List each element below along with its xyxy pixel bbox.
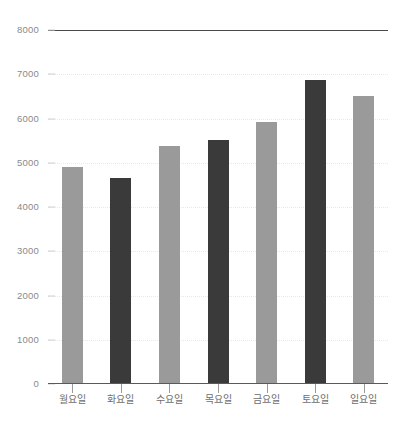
x-axis-labels-group: 월요일화요일수요일목요일금요일토요일일요일 [48,384,388,424]
x-tick-mark [121,384,122,393]
x-tick-mark [218,384,219,393]
gridline [48,30,388,31]
gridline [48,74,388,75]
bar-chart: 010002000300040005000600070008000 월요일화요일… [0,0,399,430]
bar[interactable] [110,178,131,384]
gridline [48,119,388,120]
x-tick-mark [315,384,316,393]
y-axis-tick-label: 1000 [0,335,39,345]
bar[interactable] [256,122,277,384]
x-tick-mark [267,384,268,393]
bar[interactable] [62,167,83,384]
plot-area [48,30,388,384]
y-axis-tick-label: 2000 [0,291,39,301]
y-tick-mark [48,118,55,119]
bar[interactable] [305,80,326,384]
y-tick-mark [48,339,55,340]
y-tick-mark [48,295,55,296]
x-tick-mark [364,384,365,393]
x-tick-mark [72,384,73,393]
y-axis-tick-label: 4000 [0,202,39,212]
y-axis-tick-label: 6000 [0,114,39,124]
y-tick-mark [48,207,55,208]
y-axis-tick-label: 0 [0,379,39,389]
y-axis-tick-label: 8000 [0,25,39,35]
y-tick-mark [48,30,55,31]
y-tick-mark [48,251,55,252]
x-tick-mark [169,384,170,393]
y-tick-mark [48,162,55,163]
bar[interactable] [353,96,374,384]
y-axis-tick-label: 7000 [0,70,39,80]
y-tick-mark [48,74,55,75]
bar[interactable] [208,140,229,384]
y-axis-tick-label: 3000 [0,247,39,257]
bar[interactable] [159,146,180,384]
y-axis-tick-label: 5000 [0,158,39,168]
x-axis-category-label: 일요일 [334,395,394,405]
